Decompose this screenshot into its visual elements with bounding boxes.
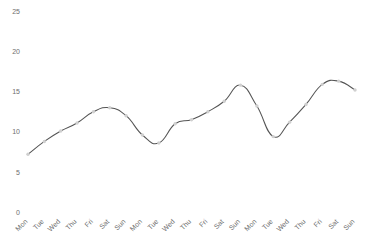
x-axis-tick-label: Sat xyxy=(213,218,225,230)
y-axis-tick-label: 15 xyxy=(12,88,20,95)
data-point-marker xyxy=(75,121,78,124)
y-axis-tick-label: 5 xyxy=(16,169,20,176)
x-axis-tick-label: Tue xyxy=(32,218,45,231)
x-axis-tick-label: Mon xyxy=(14,218,29,233)
data-point-marker xyxy=(157,141,160,144)
data-point-marker xyxy=(26,153,29,156)
data-point-marker xyxy=(353,88,356,91)
x-axis-tick-label: Sat xyxy=(327,218,339,230)
y-axis-tick-label: 25 xyxy=(12,8,20,15)
data-point-marker xyxy=(59,129,62,132)
x-axis: MonTueWedThuFriSatSunMonTueWedThuFriSatS… xyxy=(14,217,356,232)
data-point-marker xyxy=(272,135,275,138)
x-axis-tick-label: Wed xyxy=(275,218,290,233)
data-point-marker xyxy=(223,100,226,103)
y-axis-tick-label: 10 xyxy=(12,128,20,135)
x-axis-tick-label: Fri xyxy=(83,217,94,228)
x-axis-tick-label: Thu xyxy=(293,218,307,232)
x-axis-tick-label: Tue xyxy=(146,218,159,231)
data-point-marker xyxy=(255,104,258,107)
x-axis-tick-label: Sun xyxy=(227,218,241,232)
data-point-marker xyxy=(173,122,176,125)
x-axis-tick-label: Fri xyxy=(312,217,323,228)
x-axis-tick-label: Fri xyxy=(198,217,209,228)
data-point-marker xyxy=(43,140,46,143)
x-axis-tick-label: Mon xyxy=(243,218,258,233)
x-axis-tick-label: Mon xyxy=(129,218,144,233)
chart-canvas: 0510152025 MonTueWedThuFriSatSunMonTueWe… xyxy=(0,0,375,244)
series-markers xyxy=(26,79,356,156)
data-point-marker xyxy=(304,103,307,106)
x-axis-tick-label: Sun xyxy=(113,218,127,232)
data-point-marker xyxy=(108,106,111,109)
y-axis-tick-label: 0 xyxy=(16,209,20,216)
y-axis-tick-label: 20 xyxy=(12,48,20,55)
data-point-marker xyxy=(288,120,291,123)
data-point-marker xyxy=(239,83,242,86)
data-point-marker xyxy=(92,110,95,113)
series-line-value xyxy=(28,80,355,154)
x-axis-tick-label: Sat xyxy=(98,218,110,230)
data-point-marker xyxy=(141,133,144,136)
line-chart: 0510152025 MonTueWedThuFriSatSunMonTueWe… xyxy=(0,0,375,244)
x-axis-tick-label: Tue xyxy=(261,218,274,231)
x-axis-tick-label: Wed xyxy=(161,218,176,233)
data-point-marker xyxy=(321,83,324,86)
data-point-marker xyxy=(206,110,209,113)
data-point-marker xyxy=(124,114,127,117)
y-axis: 0510152025 xyxy=(12,8,20,216)
data-point-marker xyxy=(337,79,340,82)
data-point-marker xyxy=(190,118,193,121)
x-axis-tick-label: Wed xyxy=(46,218,61,233)
x-axis-tick-label: Thu xyxy=(64,218,78,232)
x-axis-tick-label: Thu xyxy=(179,218,193,232)
x-axis-tick-label: Sun xyxy=(342,218,356,232)
